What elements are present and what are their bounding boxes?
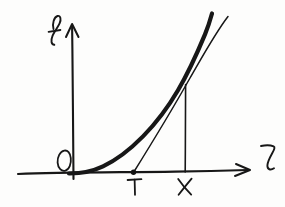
hand-drawn-plot: f t O T X [0, 0, 285, 207]
origin-label [58, 151, 71, 171]
y-axis-label-crossbar [49, 30, 61, 32]
origin-label-glyph-stroke [58, 151, 71, 171]
x-axis-label-glyph-stroke [261, 145, 274, 169]
point-t-dot [131, 170, 136, 175]
point-label-t [128, 179, 142, 195]
y-axis-label [49, 16, 61, 45]
x-axis-label [261, 145, 274, 169]
function-curve [69, 14, 212, 174]
tangent-line [134, 17, 229, 173]
point-label-x [178, 179, 191, 195]
y-axis-line [72, 26, 73, 179]
figure-canvas: f t O T X [0, 0, 285, 207]
